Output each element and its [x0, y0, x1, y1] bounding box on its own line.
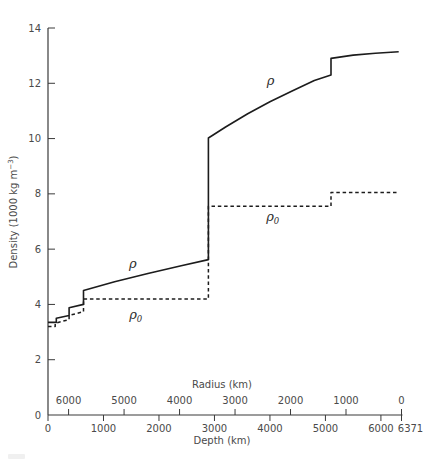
radius-tick-label: 6000	[56, 395, 81, 406]
depth-axis-title: Depth (km)	[152, 435, 292, 446]
y-axis-title-superscript: −3	[7, 159, 15, 169]
figure-density-profile: 0246810121401000200030004000500060006371…	[0, 0, 436, 463]
depth-tick-label: 1000	[91, 423, 116, 434]
series-rho	[48, 52, 399, 323]
radius-tick-label: 5000	[111, 395, 136, 406]
y-axis-title-text: Density (1000 kg m	[8, 170, 19, 269]
y-axis-title: Density (1000 kg m−3)	[7, 112, 25, 312]
depth-tick-label: 0	[45, 423, 51, 434]
y-tick-label: 12	[28, 78, 41, 89]
y-axis-ticks: 02468101214	[28, 23, 55, 421]
radius-tick-label: 1000	[333, 395, 358, 406]
y-tick-label: 4	[35, 299, 41, 310]
depth-axis-ticks: 01000200030004000500060006371	[45, 415, 423, 434]
density-depth-chart: 0246810121401000200030004000500060006371…	[0, 0, 436, 463]
y-tick-label: 14	[28, 23, 41, 34]
depth-tick-label: 4000	[257, 423, 282, 434]
curve-label-rho-core: ρ	[266, 73, 275, 88]
y-tick-label: 10	[28, 133, 41, 144]
radius-tick-label: 0	[398, 395, 404, 406]
y-tick-label: 8	[35, 188, 41, 199]
depth-tick-label: 2000	[146, 423, 171, 434]
radius-axis-ticks: 6000500040003000200010000	[56, 395, 405, 415]
y-tick-label: 0	[35, 410, 41, 421]
depth-tick-label: 3000	[202, 423, 227, 434]
radius-axis-title: Radius (km)	[152, 379, 292, 390]
radius-tick-label: 4000	[167, 395, 192, 406]
depth-tick-label: 5000	[313, 423, 338, 434]
radius-tick-label: 2000	[278, 395, 303, 406]
series-rho0	[48, 193, 399, 327]
y-tick-label: 6	[35, 244, 41, 255]
cropped-caption-artifact	[8, 454, 25, 459]
depth-tick-label: 6371	[398, 423, 423, 434]
y-tick-label: 2	[35, 354, 41, 365]
curve-label-rho0-core: ρ0	[265, 209, 280, 226]
y-axis-title-close: )	[8, 155, 19, 159]
depth-tick-label: 6000	[368, 423, 393, 434]
curve-label-rho-mantle: ρ	[128, 256, 137, 271]
radius-tick-label: 3000	[222, 395, 247, 406]
curve-label-rho0-mantle: ρ0	[128, 307, 143, 324]
